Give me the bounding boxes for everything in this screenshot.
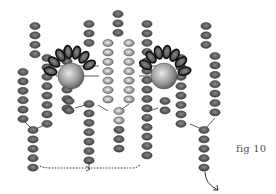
seed-beads	[18, 10, 220, 171]
seed-bead	[84, 119, 94, 126]
seed-bead	[28, 155, 38, 162]
seed-bead	[124, 39, 134, 46]
seed-bead	[124, 49, 134, 56]
seed-bead	[113, 10, 123, 17]
seed-bead	[18, 87, 28, 94]
seed-bead	[160, 107, 170, 114]
seed-bead	[113, 29, 123, 36]
seed-bead	[160, 97, 170, 104]
seed-bead	[142, 95, 152, 102]
seed-bead	[142, 105, 152, 112]
figure-caption: fig 10	[236, 143, 266, 154]
seed-bead	[210, 71, 220, 78]
center-left-top-column	[84, 20, 94, 46]
seed-bead	[114, 117, 124, 124]
right-stem	[199, 126, 209, 171]
seed-bead	[142, 133, 152, 140]
seed-bead	[30, 51, 40, 58]
dotted-thread-path	[40, 164, 140, 168]
seed-bead	[210, 99, 220, 106]
seed-bead	[201, 32, 211, 39]
seed-bead	[142, 142, 152, 149]
right-drop-under-bead	[160, 97, 170, 114]
seed-bead	[142, 77, 152, 84]
seed-bead	[210, 90, 220, 97]
left-inner-column	[42, 54, 52, 127]
seed-bead	[210, 81, 220, 88]
seed-bead	[142, 152, 152, 159]
seed-bead	[176, 111, 186, 118]
seed-bead	[84, 138, 94, 145]
seed-bead	[201, 22, 211, 29]
left-mid-stem	[84, 100, 94, 164]
left-large-bead	[58, 63, 84, 89]
seed-bead	[142, 20, 152, 27]
seed-bead	[30, 41, 40, 48]
seed-bead	[28, 126, 38, 133]
seed-bead	[210, 52, 220, 59]
seed-bead	[42, 101, 52, 108]
seed-bead	[103, 77, 113, 84]
seed-bead	[176, 120, 186, 127]
seed-bead	[124, 77, 134, 84]
seed-bead	[142, 114, 152, 121]
left-top-column	[30, 22, 40, 57]
exit-thread	[205, 172, 218, 190]
seed-bead	[84, 110, 94, 117]
diagram-canvas	[0, 0, 276, 194]
seed-bead	[18, 68, 28, 75]
seed-bead	[114, 136, 124, 143]
seed-bead	[114, 107, 124, 114]
left-outer-column	[18, 68, 28, 122]
seed-bead	[176, 83, 186, 90]
seed-bead	[124, 68, 134, 75]
seed-bead	[210, 109, 220, 116]
seed-bead	[103, 68, 113, 75]
seed-bead	[18, 97, 28, 104]
seed-bead	[199, 126, 209, 133]
seed-bead	[18, 115, 28, 122]
right-large-bead	[151, 63, 177, 89]
seed-bead	[84, 39, 94, 46]
seed-bead	[124, 86, 134, 93]
seed-bead	[142, 39, 152, 46]
seed-bead	[42, 111, 52, 118]
seed-bead	[84, 147, 94, 154]
seed-bead	[84, 129, 94, 136]
seed-bead	[28, 145, 38, 152]
seed-bead	[199, 136, 209, 143]
thread-line	[98, 105, 108, 111]
thread-path-arrows	[40, 162, 218, 190]
seed-bead	[84, 20, 94, 27]
seed-bead	[199, 155, 209, 162]
seed-bead	[124, 96, 134, 103]
seed-bead	[42, 120, 52, 127]
seed-bead	[30, 32, 40, 39]
seed-bead	[114, 145, 124, 152]
seed-bead	[124, 58, 134, 65]
seed-bead	[64, 97, 74, 104]
seed-bead	[28, 136, 38, 143]
seed-bead	[103, 39, 113, 46]
seed-bead	[103, 58, 113, 65]
seed-bead	[201, 41, 211, 48]
center-left-column	[103, 39, 113, 103]
seed-bead	[30, 22, 40, 29]
seed-bead	[18, 106, 28, 113]
seed-bead	[42, 92, 52, 99]
seed-bead	[113, 20, 123, 27]
left-stem	[28, 126, 38, 171]
seed-bead	[84, 30, 94, 37]
seed-bead	[18, 78, 28, 85]
center-top-column	[113, 10, 123, 36]
seed-bead	[199, 164, 209, 171]
center-right-column	[124, 39, 134, 103]
seed-bead	[176, 101, 186, 108]
seed-bead	[42, 83, 52, 90]
right-mid-top-column	[142, 20, 152, 46]
seed-bead	[103, 96, 113, 103]
right-top-column	[201, 22, 211, 48]
seed-bead	[142, 124, 152, 131]
seed-bead	[64, 107, 74, 114]
seed-bead	[142, 30, 152, 37]
